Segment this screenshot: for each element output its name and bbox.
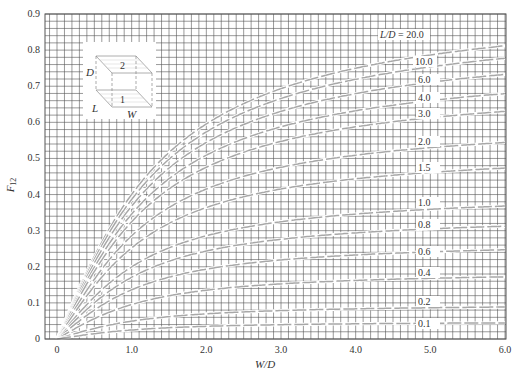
curve-label: 0.6 — [418, 246, 431, 257]
y-tick-label: 0.6 — [28, 116, 41, 127]
curve-label: 4.0 — [418, 92, 431, 103]
curve-label: 1.0 — [418, 197, 431, 208]
inset-label-w: W — [127, 108, 137, 120]
y-tick-label: 0.8 — [28, 44, 41, 55]
curve-label: 2.0 — [418, 136, 431, 147]
curve-label: 0.4 — [418, 267, 431, 278]
y-tick-label: 0.3 — [28, 225, 41, 236]
y-tick-label: 0.5 — [28, 152, 41, 163]
curve-label: 0.8 — [418, 219, 431, 230]
inset-label-2: 2 — [120, 60, 125, 71]
x-axis-title: W/D — [255, 358, 275, 370]
geometry-inset: 2 1 D L W — [83, 42, 156, 120]
inset-label-d: D — [85, 66, 94, 78]
curve-label: 1.5 — [418, 162, 431, 173]
svg-text:F12: F12 — [4, 178, 18, 194]
y-tick-label: 0.7 — [28, 80, 41, 91]
curve-label: L/D = 20.0 — [379, 29, 424, 40]
x-axis-ticks: 01.02.03.04.05.06.0 — [55, 344, 512, 355]
x-tick-label: 4.0 — [349, 344, 362, 355]
view-factor-chart: 2 1 D L W L/D = 20.010.06.04.03.02.01.51… — [0, 0, 524, 380]
curve-label: 3.0 — [418, 108, 431, 119]
y-axis-ticks: 00.10.20.30.40.50.60.70.80.9 — [28, 8, 41, 344]
y-tick-label: 0.4 — [28, 189, 41, 200]
curve-label: 0.2 — [418, 296, 431, 307]
x-tick-label: 6.0 — [499, 344, 512, 355]
inset-label-l: L — [91, 102, 98, 114]
curve-label: 10.0 — [415, 56, 433, 67]
y-axis-title: F12 — [4, 178, 18, 194]
x-tick-label: 5.0 — [424, 344, 437, 355]
y-tick-label: 0.2 — [28, 261, 41, 272]
curve-label: 0.1 — [418, 318, 431, 329]
inset-label-1: 1 — [120, 94, 125, 105]
x-tick-label: 1.0 — [125, 344, 138, 355]
x-tick-label: 3.0 — [275, 344, 288, 355]
x-tick-label: 2.0 — [200, 344, 213, 355]
y-tick-label: 0.1 — [28, 297, 41, 308]
y-tick-label: 0 — [35, 333, 40, 344]
x-tick-label: 0 — [55, 344, 60, 355]
curve-label: 6.0 — [418, 74, 431, 85]
y-tick-label: 0.9 — [28, 8, 41, 19]
